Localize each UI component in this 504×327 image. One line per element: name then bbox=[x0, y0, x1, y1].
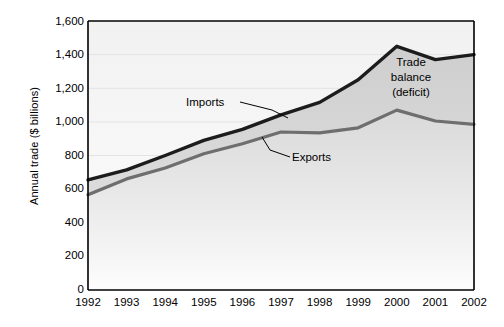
x-axis-tick-labels: 1992 1993 1994 1995 1996 1997 1998 1999 … bbox=[0, 297, 504, 317]
x-tick-2001: 2001 bbox=[423, 297, 449, 309]
x-tick-1998: 1998 bbox=[307, 297, 333, 309]
x-tick-1997: 1997 bbox=[268, 297, 294, 309]
x-tick-2000: 2000 bbox=[384, 297, 410, 309]
x-tick-1999: 1999 bbox=[345, 297, 371, 309]
trade-balance-line-2: balance bbox=[391, 71, 431, 83]
trade-balance-line-3: (deficit) bbox=[392, 86, 430, 98]
x-tick-1995: 1995 bbox=[191, 297, 217, 309]
trade-balance-annotation: Trade balance (deficit) bbox=[391, 56, 431, 98]
x-tick-1994: 1994 bbox=[152, 297, 178, 309]
trade-balance-line-1: Trade bbox=[396, 56, 426, 68]
imports-annotation: Imports bbox=[186, 96, 225, 108]
x-tick-1993: 1993 bbox=[114, 297, 140, 309]
exports-annotation: Exports bbox=[292, 151, 331, 163]
x-tick-1996: 1996 bbox=[230, 297, 256, 309]
trade-chart-figure: Annual trade ($ billions) 1,600 1,400 1,… bbox=[0, 0, 504, 327]
plot-area: Imports Exports Trade balance (deficit) bbox=[0, 0, 504, 327]
x-tick-2002: 2002 bbox=[461, 297, 487, 309]
x-tick-1992: 1992 bbox=[75, 297, 101, 309]
